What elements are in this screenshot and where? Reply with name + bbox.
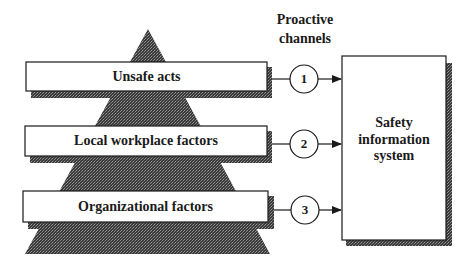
box-shadow [31, 91, 272, 98]
box-shadow [30, 156, 272, 163]
heading-line-2: channels [248, 29, 362, 48]
level-label-organizational-factors: Organizational factors [23, 197, 268, 217]
box-shadow [267, 67, 272, 98]
heading-line-1: Proactive [248, 10, 362, 29]
target-line-3: system [342, 148, 446, 165]
box-shadow [268, 196, 274, 229]
box-shadow [346, 240, 452, 246]
target-line-1: Safety [342, 115, 446, 132]
box-shadow [446, 63, 452, 246]
safety-information-system-label: Safety information system [342, 115, 446, 165]
box-shadow [28, 222, 274, 229]
channel-number-2: 2 [290, 135, 318, 153]
target-line-2: information [342, 132, 446, 149]
channel-number-3: 3 [291, 201, 319, 219]
level-label-local-workplace-factors: Local workplace factors [25, 131, 267, 151]
channel-number-1: 1 [290, 70, 318, 88]
box-shadow [267, 131, 272, 163]
proactive-channels-heading: Proactive channels [248, 10, 362, 48]
level-label-unsafe-acts: Unsafe acts [26, 67, 267, 87]
